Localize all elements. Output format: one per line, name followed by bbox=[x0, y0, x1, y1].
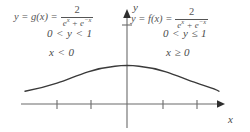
left-branch-equation: y = g(x) = 2 ex + e−x bbox=[14, 6, 93, 29]
left-den-plus: + bbox=[72, 18, 78, 28]
x-axis-arrowhead bbox=[217, 100, 225, 108]
right-domain-condition: x ≥ 0 bbox=[166, 46, 190, 58]
right-range-condition: 0 < y ≤ 1 bbox=[163, 27, 207, 39]
y-axis-arrowhead bbox=[123, 9, 131, 18]
left-den-exp-1: x bbox=[67, 16, 70, 23]
right-den-exp-1: x bbox=[181, 18, 184, 25]
right-equation-lhs: y = f(x) = bbox=[131, 14, 172, 25]
right-numerator: 2 bbox=[186, 7, 197, 19]
left-range-condition: 0 < y < 1 bbox=[47, 27, 92, 39]
right-den-exp-2: −x bbox=[199, 18, 206, 25]
sech-curve bbox=[25, 65, 219, 91]
left-fraction: 2 ex + e−x bbox=[61, 5, 94, 28]
math-figure: y x y = g(x) = 2 ex + e−x 0 < y < 1 x < … bbox=[0, 0, 250, 132]
left-domain-condition: x < 0 bbox=[49, 46, 74, 58]
left-den-exp-2: −x bbox=[84, 16, 91, 23]
left-denominator: ex + e−x bbox=[61, 18, 94, 28]
left-equation-lhs: y = g(x) = bbox=[14, 12, 58, 23]
left-equation-row: y = g(x) = 2 ex + e−x bbox=[14, 6, 93, 29]
x-axis-label: x bbox=[228, 113, 233, 125]
left-numerator: 2 bbox=[71, 5, 82, 17]
